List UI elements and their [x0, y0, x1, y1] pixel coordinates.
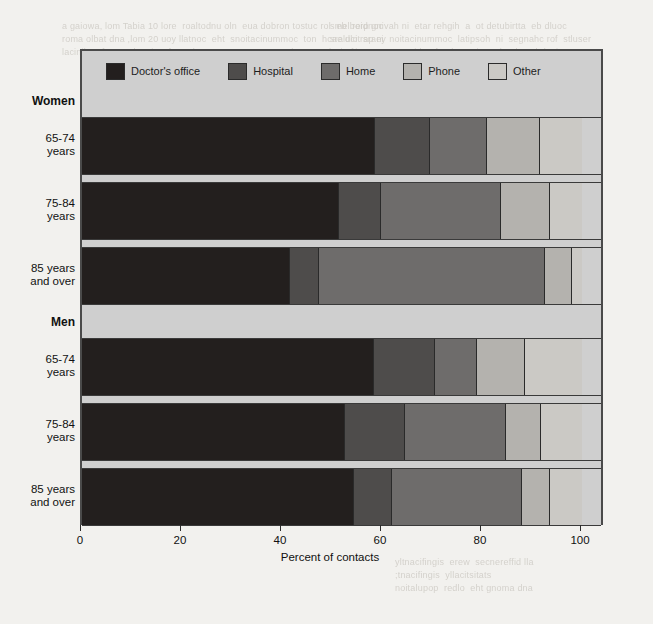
stacked-bar [82, 248, 582, 304]
x-axis-tick [380, 525, 381, 531]
bar-segment-phone [477, 339, 525, 395]
bar-segment-phone [487, 118, 540, 174]
bar-row [82, 117, 601, 175]
bar-segment-other [525, 339, 582, 395]
stacked-bar [82, 118, 582, 174]
x-axis-tick [580, 525, 581, 531]
legend-item-doctor-s-office[interactable]: Doctor's office [106, 63, 200, 80]
bar-segment-hospital [375, 118, 430, 174]
legend-item-hospital[interactable]: Hospital [228, 63, 293, 80]
chart-frame: Doctor's officeHospitalHomePhoneOther [80, 49, 603, 525]
x-axis: 020406080100 [80, 525, 580, 526]
bar-segment-phone [522, 469, 550, 525]
bar-segment-home [392, 469, 522, 525]
bar-segment-phone [501, 183, 550, 239]
bar-segment-doctor-s-office [82, 183, 339, 239]
stacked-bar [82, 339, 582, 395]
bar-segment-hospital [345, 404, 405, 460]
bar-row [82, 468, 601, 526]
x-axis-tick [80, 525, 81, 531]
bar-segment-hospital [374, 339, 435, 395]
x-axis-tick-label: 100 [570, 534, 589, 546]
group-label: Men [51, 316, 75, 329]
bar-segment-doctor-s-office [82, 339, 374, 395]
group-header-row [82, 91, 601, 117]
bar-segment-home [435, 339, 477, 395]
x-axis-tick-label: 0 [77, 534, 83, 546]
legend-swatch-icon [228, 63, 247, 80]
bar-segment-other [550, 469, 582, 525]
category-label: 65-74 years [46, 132, 75, 158]
x-axis-tick-label: 80 [474, 534, 487, 546]
x-axis-tick-label: 60 [374, 534, 387, 546]
legend-label: Phone [428, 65, 460, 77]
bar-segment-phone [506, 404, 541, 460]
legend-swatch-icon [106, 63, 125, 80]
legend-item-phone[interactable]: Phone [403, 63, 460, 80]
bar-row [82, 338, 601, 396]
bar-row [82, 182, 601, 240]
bar-segment-home [319, 248, 545, 304]
x-axis-tick [180, 525, 181, 531]
bar-row [82, 403, 601, 461]
legend-label: Doctor's office [131, 65, 200, 77]
legend-item-other[interactable]: Other [488, 63, 541, 80]
chart-legend: Doctor's officeHospitalHomePhoneOther [82, 51, 601, 91]
legend-swatch-icon [321, 63, 340, 80]
group-label: Women [32, 95, 75, 108]
bar-segment-home [381, 183, 501, 239]
legend-label: Home [346, 65, 375, 77]
stacked-bar [82, 404, 582, 460]
bar-segment-phone [545, 248, 573, 304]
category-label: 75-84 years [46, 418, 75, 444]
bar-segment-home [430, 118, 487, 174]
legend-label: Other [513, 65, 541, 77]
bar-segment-hospital [339, 183, 381, 239]
x-axis-tick [480, 525, 481, 531]
legend-swatch-icon [403, 63, 422, 80]
bar-segment-other [541, 404, 582, 460]
bar-segment-home [405, 404, 506, 460]
x-axis-tick [280, 525, 281, 531]
stacked-bar [82, 183, 582, 239]
bar-segment-doctor-s-office [82, 404, 345, 460]
plot-area [82, 91, 601, 523]
legend-swatch-icon [488, 63, 507, 80]
stacked-bar [82, 469, 582, 525]
bar-segment-hospital [290, 248, 319, 304]
legend-item-home[interactable]: Home [321, 63, 375, 80]
bar-segment-doctor-s-office [82, 469, 354, 525]
group-header-row [82, 312, 601, 338]
bar-segment-doctor-s-office [82, 248, 290, 304]
legend-label: Hospital [253, 65, 293, 77]
x-axis-title: Percent of contacts [80, 551, 580, 563]
bar-segment-other [572, 248, 582, 304]
bar-segment-hospital [354, 469, 392, 525]
category-label: 75-84 years [46, 197, 75, 223]
category-label: 85 years and over [30, 483, 75, 509]
bar-row [82, 247, 601, 305]
bar-segment-other [550, 183, 582, 239]
category-label: 85 years and over [30, 262, 75, 288]
x-axis-tick-label: 40 [274, 534, 287, 546]
bar-segment-other [540, 118, 582, 174]
x-axis-tick-label: 20 [174, 534, 187, 546]
category-label: 65-74 years [46, 353, 75, 379]
bar-segment-doctor-s-office [82, 118, 375, 174]
